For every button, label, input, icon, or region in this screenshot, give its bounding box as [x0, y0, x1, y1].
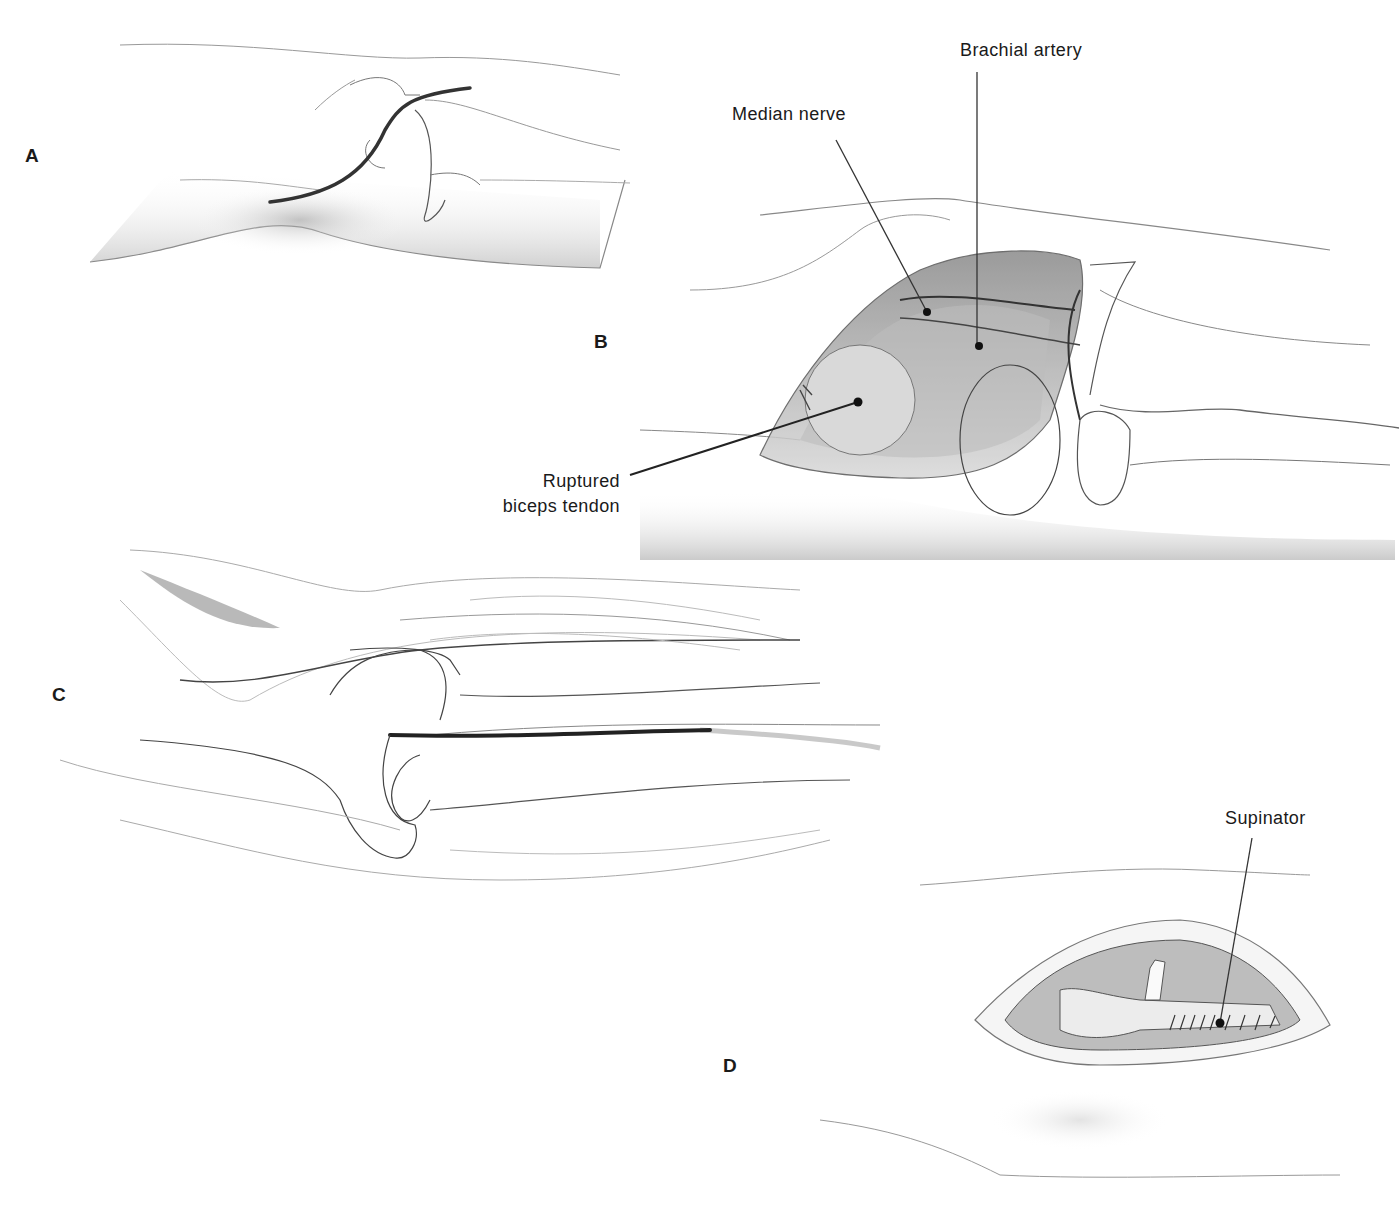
label-brachial-artery: Brachial artery — [960, 38, 1082, 63]
anatomical-figure: A B C D Brachial artery Median nerve Rup… — [0, 0, 1399, 1224]
ruptured-tendon-pointer-dot — [854, 398, 863, 407]
label-ruptured-line2: biceps tendon — [440, 494, 620, 519]
label-ruptured-biceps-tendon: Ruptured biceps tendon — [440, 469, 620, 519]
panel-b-illustration — [630, 72, 1399, 560]
brachial-artery-pointer-dot — [975, 342, 983, 350]
illustration-canvas — [0, 0, 1399, 1224]
panel-a-illustration — [90, 44, 630, 268]
panel-label-c: C — [52, 684, 66, 706]
label-median-nerve: Median nerve — [732, 102, 846, 127]
label-ruptured-line1: Ruptured — [440, 469, 620, 494]
panel-c-illustration — [60, 550, 880, 880]
panel-label-d: D — [723, 1055, 737, 1077]
incision-line-c — [390, 730, 710, 736]
label-supinator: Supinator — [1225, 806, 1306, 831]
panel-label-b: B — [594, 331, 608, 353]
panel-d-illustration — [820, 838, 1340, 1177]
panel-label-a: A — [25, 145, 39, 167]
median-nerve-leader — [836, 140, 927, 312]
supinator-pointer-dot — [1216, 1019, 1225, 1028]
median-nerve-pointer-dot — [923, 308, 931, 316]
